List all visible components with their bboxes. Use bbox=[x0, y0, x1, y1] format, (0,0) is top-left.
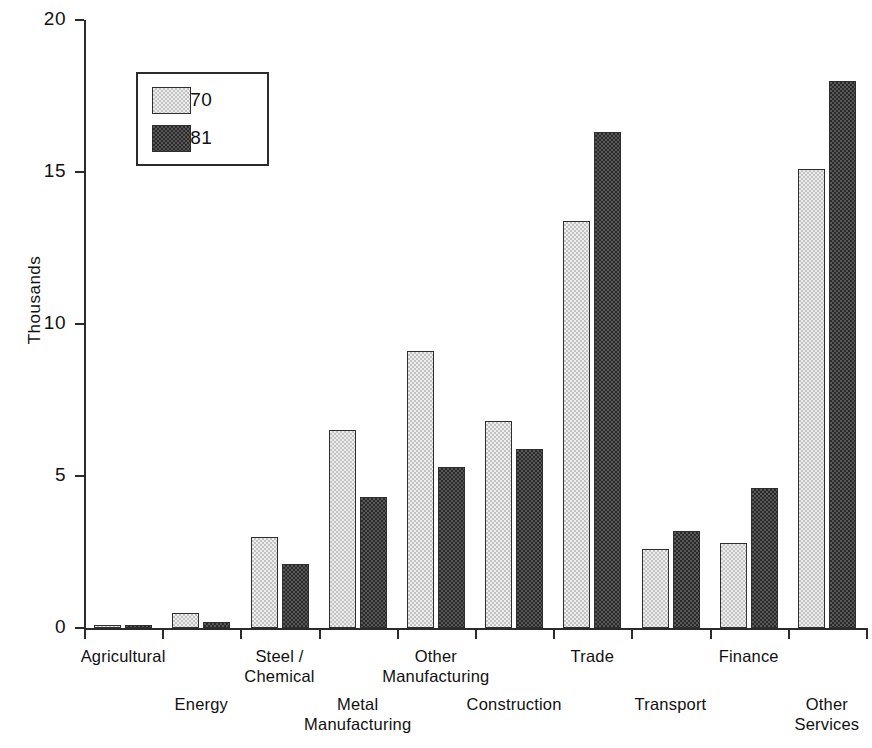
x-axis-tick bbox=[319, 628, 321, 639]
x-axis-category-label: Finance bbox=[664, 646, 834, 666]
y-axis-tick bbox=[75, 171, 84, 173]
y-axis-tick bbox=[75, 323, 84, 325]
bar-1970-energy bbox=[172, 613, 199, 628]
y-axis-tick-label: 15 bbox=[0, 160, 66, 182]
y-axis-tick bbox=[75, 475, 84, 477]
bar-1981-other-services bbox=[829, 81, 856, 628]
x-axis-tick bbox=[240, 628, 242, 639]
legend-entry-1970: 1970 bbox=[152, 86, 212, 114]
x-axis-category-label: Other Services bbox=[742, 694, 872, 734]
bar-1970-finance bbox=[720, 543, 747, 628]
x-axis-tick bbox=[631, 628, 633, 639]
y-axis-tick bbox=[75, 19, 84, 21]
legend-entry-1981: 1981 bbox=[152, 124, 212, 152]
y-axis-tick-label: 5 bbox=[0, 464, 66, 486]
x-axis-category-label: Construction bbox=[429, 694, 599, 714]
bar-1981-metal-manufacturing bbox=[360, 497, 387, 628]
x-axis-tick bbox=[710, 628, 712, 639]
bar-1970-other-services bbox=[798, 169, 825, 628]
bar-1970-agricultural bbox=[94, 625, 121, 628]
x-axis-category-label: Transport bbox=[586, 694, 756, 714]
x-axis-category-label: Trade bbox=[507, 646, 677, 666]
bar-1981-trade bbox=[594, 132, 621, 628]
bar-1981-finance bbox=[751, 488, 778, 628]
bar-1981-construction bbox=[516, 449, 543, 628]
bar-1981-other-manufacturing bbox=[438, 467, 465, 628]
x-axis-category-label: Agricultural bbox=[38, 646, 208, 666]
bar-1970-transport bbox=[642, 549, 669, 628]
x-axis-category-label: Metal Manufacturing bbox=[273, 694, 443, 734]
bar-1981-transport bbox=[673, 531, 700, 628]
y-axis-title: Thousands bbox=[25, 220, 45, 380]
legend-swatch-1981 bbox=[152, 125, 191, 152]
bar-1970-metal-manufacturing bbox=[329, 430, 356, 628]
legend-swatch-1970 bbox=[152, 87, 191, 114]
y-axis-tick-label: 20 bbox=[0, 8, 66, 30]
y-axis-tick bbox=[75, 627, 84, 629]
bar-1970-construction bbox=[485, 421, 512, 628]
bar-1970-steel---chemical bbox=[251, 537, 278, 628]
y-axis-tick-label: 0 bbox=[0, 616, 66, 638]
x-axis-tick bbox=[84, 628, 86, 639]
x-axis-category-label: Energy bbox=[116, 694, 286, 714]
x-axis-tick bbox=[397, 628, 399, 639]
x-axis-category-label: Other Manufacturing bbox=[351, 646, 521, 686]
bar-1981-agricultural bbox=[125, 625, 152, 628]
bar-1970-trade bbox=[563, 221, 590, 628]
bar-chart: Thousands 05101520 AgriculturalEnergySte… bbox=[0, 0, 872, 748]
x-axis-tick bbox=[788, 628, 790, 639]
x-axis-tick bbox=[475, 628, 477, 639]
chart-legend: 1970 1981 bbox=[136, 72, 269, 166]
bar-1970-other-manufacturing bbox=[407, 351, 434, 628]
y-axis-tick-label: 10 bbox=[0, 312, 66, 334]
bar-1981-energy bbox=[203, 622, 230, 628]
x-axis-tick bbox=[553, 628, 555, 639]
x-axis-category-label: Steel / Chemical bbox=[195, 646, 365, 686]
x-axis-tick bbox=[162, 628, 164, 639]
bar-1981-steel---chemical bbox=[282, 564, 309, 628]
y-axis-line bbox=[84, 20, 86, 628]
x-axis-tick bbox=[866, 628, 868, 639]
